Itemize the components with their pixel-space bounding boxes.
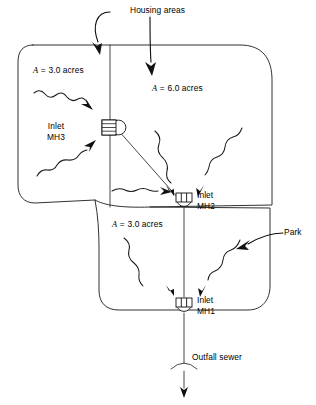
area-value-ne: 6.0 [168, 83, 180, 93]
area-equals-sp: = [120, 219, 126, 229]
area-label-north-east: A = 6.0 acres [152, 83, 203, 95]
area-unit-nw: acres [63, 65, 84, 75]
callout-label-housing-areas: Housing areas [130, 5, 185, 16]
area-value-nw: 3.0 [49, 65, 61, 75]
node-type-mh2: Inlet [197, 190, 215, 201]
diagram-canvas [0, 0, 316, 405]
inlet-symbol-mh2 [176, 193, 192, 206]
callout-label-park: Park [284, 227, 302, 238]
node-type-mh1: Inlet [197, 295, 215, 306]
area-symbol-ne: A [152, 84, 157, 93]
callout-leader-housing-left [92, 12, 110, 55]
node-label-mh2: Inlet MH2 [197, 190, 215, 211]
area-symbol-sp: A [112, 220, 117, 229]
watershed-boundary-park [95, 200, 270, 310]
node-type-mh3: Inlet [47, 121, 65, 132]
area-equals-nw: = [41, 65, 47, 75]
area-symbol-nw: A [33, 66, 38, 75]
callout-label-outfall-sewer: Outfall sewer [192, 352, 242, 363]
node-name-mh2: MH2 [197, 201, 215, 212]
callout-leader-housing-right [145, 17, 156, 76]
area-unit-ne: acres [182, 83, 203, 93]
node-label-mh3: Inlet MH3 [47, 121, 65, 142]
drainage-diagram: Housing areas Park Outfall sewer A = 3.0… [0, 0, 316, 405]
node-name-mh3: MH3 [47, 132, 65, 143]
inlet-symbol-mh1 [176, 298, 192, 311]
node-name-mh1: MH1 [197, 306, 215, 317]
area-label-north-west: A = 3.0 acres [33, 65, 84, 77]
area-value-sp: 3.0 [128, 219, 140, 229]
node-label-mh1: Inlet MH1 [197, 295, 215, 316]
area-equals-ne: = [160, 83, 166, 93]
inlet-symbol-mh3 [102, 120, 126, 135]
area-unit-sp: acres [142, 219, 163, 229]
callout-leader-park [236, 233, 283, 250]
area-label-south-park: A = 3.0 acres [112, 219, 163, 231]
